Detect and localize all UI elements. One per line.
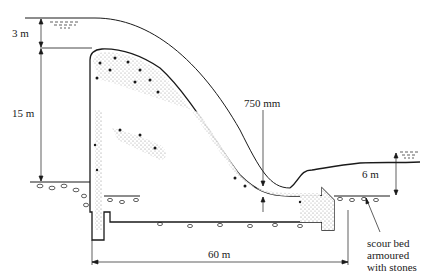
water-level-symbol-upstream — [50, 22, 80, 28]
dam-height-label: 15 m — [12, 107, 34, 119]
apron-length-label: 60 m — [208, 248, 230, 260]
tailwater-depth-label: 6 m — [362, 168, 379, 180]
spillway-diagram: 3 m 15 m 750 mm 6 m 60 m scour bed armou… — [0, 0, 436, 280]
upstream-head-label: 3 m — [12, 27, 29, 39]
scour-note-line1: scour bed — [367, 237, 409, 249]
scour-note-line2: armoured — [367, 249, 409, 261]
tailwater-surface — [290, 152, 420, 188]
jet-thickness-label: 750 mm — [244, 97, 280, 109]
scour-note-line3: with stones — [367, 261, 417, 273]
water-level-symbol-downstream — [400, 152, 418, 158]
